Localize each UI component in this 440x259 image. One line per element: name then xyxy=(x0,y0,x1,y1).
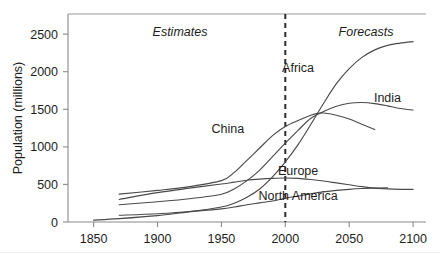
series-label-europe: Europe xyxy=(278,164,318,178)
x-tick-label-2100: 2100 xyxy=(399,232,427,246)
y-axis-title: Population (millions) xyxy=(11,62,25,175)
series-label-china: China xyxy=(211,122,244,136)
series-label-north-america: North America xyxy=(258,189,337,203)
annotation-forecasts: Forecasts xyxy=(339,25,394,39)
x-axis-ticks xyxy=(94,222,414,227)
y-tick-label-2500: 2500 xyxy=(30,28,58,42)
y-tick-label-0: 0 xyxy=(51,216,58,230)
population-projection-chart: 0 500 1000 1500 2000 2500 1850 1900 1950… xyxy=(0,0,440,259)
series-label-africa: Africa xyxy=(282,61,314,75)
series-line-china xyxy=(119,113,375,194)
x-tick-label-1950: 1950 xyxy=(207,232,235,246)
x-tick-label-1850: 1850 xyxy=(80,232,108,246)
annotation-estimates: Estimates xyxy=(153,25,208,39)
series-lines-group xyxy=(94,42,414,221)
y-tick-label-2000: 2000 xyxy=(30,65,58,79)
x-tick-label-1900: 1900 xyxy=(144,232,172,246)
y-tick-label-1000: 1000 xyxy=(30,140,58,154)
chart-screenshot: 0 500 1000 1500 2000 2500 1850 1900 1950… xyxy=(0,0,440,259)
x-tick-label-2050: 2050 xyxy=(335,232,363,246)
y-tick-labels: 0 500 1000 1500 2000 2500 xyxy=(30,28,58,230)
scan-artifact-line xyxy=(0,252,440,253)
x-tick-labels: 1850 1900 1950 2000 2050 2100 xyxy=(80,232,427,246)
series-label-india: India xyxy=(374,91,401,105)
x-tick-label-2000: 2000 xyxy=(271,232,299,246)
y-tick-label-500: 500 xyxy=(37,178,58,192)
y-axis-ticks xyxy=(63,34,68,222)
y-tick-label-1500: 1500 xyxy=(30,103,58,117)
